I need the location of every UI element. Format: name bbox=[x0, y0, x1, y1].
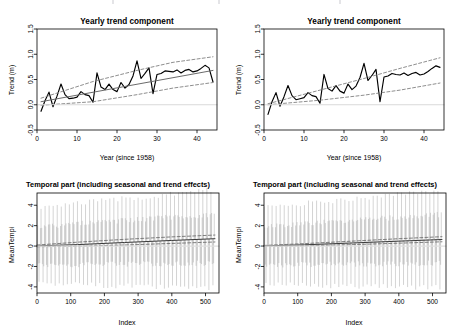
y-tick-label: -4 bbox=[254, 284, 261, 290]
x-tick-label: 0 bbox=[262, 298, 266, 305]
y-tick-label: 0.5 bbox=[27, 75, 34, 84]
panel-top-left-svg: Yearly trend component Trend (m) Year (s… bbox=[0, 0, 227, 165]
x-tick-label: 20 bbox=[340, 135, 348, 142]
x-tick-label: 40 bbox=[420, 135, 428, 142]
x-tick-label: 200 bbox=[326, 298, 337, 305]
y-tick-label: 0.0 bbox=[254, 100, 261, 109]
x-tick-label: 0 bbox=[35, 135, 39, 142]
x-tick-label: 400 bbox=[166, 298, 177, 305]
y-tick-label: 0 bbox=[27, 244, 34, 248]
x-tick-label: 500 bbox=[427, 298, 438, 305]
y-tick-label: 4 bbox=[27, 203, 34, 207]
x-tick-label: 400 bbox=[393, 298, 404, 305]
y-tick-label: -0.5 bbox=[27, 124, 34, 136]
x-tick-label: 300 bbox=[360, 298, 371, 305]
x-tick-label: 100 bbox=[292, 298, 303, 305]
x-tick-label: 20 bbox=[113, 135, 121, 142]
y-tick-label: 0.0 bbox=[27, 100, 34, 109]
x-tick-label: 10 bbox=[300, 135, 308, 142]
y-tick-label: 2 bbox=[27, 223, 34, 227]
y-tick-label: 1.0 bbox=[254, 49, 261, 58]
x-tick-label: 0 bbox=[262, 135, 266, 142]
panel-title: Temporal part (including seasonal and tr… bbox=[253, 180, 437, 189]
y-tick-label: -2 bbox=[27, 263, 34, 269]
panel-title: Temporal part (including seasonal and tr… bbox=[26, 180, 210, 189]
panel-bottom-right: Temporal part (including seasonal and tr… bbox=[227, 165, 454, 330]
x-tick-label: 500 bbox=[200, 298, 211, 305]
y-tick-label: -2 bbox=[254, 263, 261, 269]
panel-top-left: Yearly trend component Trend (m) Year (s… bbox=[0, 0, 227, 165]
y-tick-label: 1.0 bbox=[27, 49, 34, 58]
y-tick-label: 0 bbox=[254, 244, 261, 248]
panel-title: Yearly trend component bbox=[307, 17, 401, 26]
y-axis-label: MeanTempi bbox=[235, 226, 243, 263]
panel-bottom-left-svg: Temporal part (including seasonal and tr… bbox=[0, 165, 227, 330]
y-tick-label: 2 bbox=[254, 223, 261, 227]
y-tick-label: 4 bbox=[254, 203, 261, 207]
y-axis-label: MeanTempi bbox=[8, 226, 16, 263]
panel-bottom-right-svg: Temporal part (including seasonal and tr… bbox=[227, 165, 454, 330]
y-tick-label: -4 bbox=[27, 284, 34, 290]
x-tick-label: 300 bbox=[133, 298, 144, 305]
panel-top-right-svg: Yearly trend component Trend (m) Year (s… bbox=[227, 0, 454, 165]
x-tick-label: 200 bbox=[99, 298, 110, 305]
x-tick-label: 100 bbox=[65, 298, 76, 305]
x-axis-label: Year (since 1958) bbox=[327, 154, 382, 162]
y-axis-label: Trend (m) bbox=[8, 65, 16, 95]
panel-title: Yearly trend component bbox=[80, 17, 174, 26]
panel-bottom-left: Temporal part (including seasonal and tr… bbox=[0, 165, 227, 330]
x-axis-label: Index bbox=[345, 319, 363, 326]
x-tick-label: 10 bbox=[73, 135, 81, 142]
figure-grid: Yearly trend component Trend (m) Year (s… bbox=[0, 0, 454, 330]
y-tick-label: -0.5 bbox=[254, 124, 261, 136]
y-axis-label: Trend (m) bbox=[235, 65, 243, 95]
x-tick-label: 40 bbox=[193, 135, 201, 142]
x-tick-label: 30 bbox=[380, 135, 388, 142]
y-tick-label: 1.5 bbox=[27, 24, 34, 33]
x-tick-label: 0 bbox=[35, 298, 39, 305]
panel-top-right: Yearly trend component Trend (m) Year (s… bbox=[227, 0, 454, 165]
x-tick-label: 30 bbox=[153, 135, 161, 142]
y-tick-label: 0.5 bbox=[254, 75, 261, 84]
x-axis-label: Year (since 1958) bbox=[100, 154, 155, 162]
y-tick-label: 1.5 bbox=[254, 24, 261, 33]
x-axis-label: Index bbox=[118, 319, 136, 326]
